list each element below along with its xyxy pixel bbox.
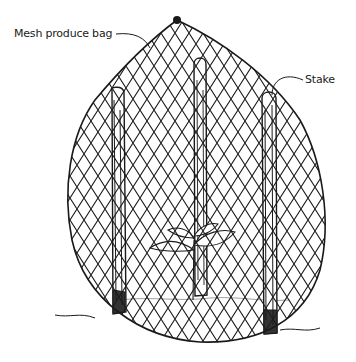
illustration-canvas: Mesh produce bag Stake xyxy=(0,0,356,362)
mesh-pattern xyxy=(0,0,356,362)
label-mesh-produce-bag: Mesh produce bag xyxy=(14,27,112,40)
bag-knot xyxy=(173,16,181,24)
label-stake: Stake xyxy=(305,73,335,86)
bag-drawing xyxy=(0,0,356,362)
